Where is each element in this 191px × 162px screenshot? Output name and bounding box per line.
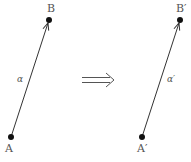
implies-arrow-icon (82, 73, 114, 87)
label-b-prime: B′ (176, 2, 187, 15)
vector-translation-diagram: A B α A′ B′ α′ (0, 0, 191, 162)
label-a-prime: A′ (136, 142, 148, 155)
label-alpha-prime: α′ (167, 74, 175, 84)
point-b (46, 17, 52, 23)
label-alpha: α (17, 74, 23, 84)
point-a-prime (139, 134, 145, 140)
point-b-prime (177, 17, 183, 23)
label-a: A (4, 142, 14, 155)
point-a (8, 134, 14, 140)
right-vector: A′ B′ α′ (136, 2, 187, 155)
left-vector: A B α (4, 2, 55, 155)
label-b: B (47, 2, 55, 15)
